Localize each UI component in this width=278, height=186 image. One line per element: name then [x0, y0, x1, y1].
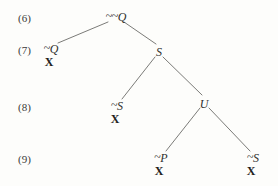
tableau-edges	[0, 0, 278, 186]
row-9-label: (9)	[18, 153, 31, 165]
edge-u-to-negp	[166, 108, 200, 151]
node-double-negation-q: ~~Q	[106, 11, 127, 23]
node-s: S	[156, 46, 162, 58]
node-negation-q-formula: ~Q	[44, 43, 59, 55]
node-s-formula: S	[156, 46, 162, 58]
edge-qq-to-s	[124, 22, 156, 44]
row-8-label: (8)	[18, 101, 31, 113]
edge-qq-to-negq	[58, 22, 108, 43]
node-negation-q-closure-marker: X	[40, 56, 59, 68]
node-negation-s-right: ~SX	[247, 152, 259, 177]
node-u-formula: U	[200, 98, 209, 110]
node-negation-s-left-closure-marker: X	[107, 113, 123, 125]
edge-s-to-negs	[122, 57, 155, 99]
node-negation-s-right-closure-marker: X	[243, 165, 259, 177]
node-double-negation-q-formula: ~~Q	[106, 11, 127, 23]
node-negation-s-left: ~SX	[111, 100, 123, 125]
row-6-label: (6)	[18, 12, 31, 24]
node-negation-p-letter: P	[160, 151, 167, 165]
node-u: U	[200, 98, 209, 110]
semantic-tableau-diagram: (6)(7)(8)(9) ~~Q~QXS~SXU~PX~SX	[0, 0, 278, 186]
row-7-label: (7)	[18, 44, 31, 56]
node-negation-p-formula: ~P	[154, 152, 167, 164]
node-negation-p: ~PX	[154, 152, 167, 177]
edge-u-to-negs	[209, 108, 250, 151]
node-negation-s-left-letter: S	[117, 99, 123, 113]
node-negation-s-left-formula: ~S	[111, 100, 123, 112]
node-negation-s-left-negation-symbol: ~	[111, 98, 117, 112]
node-double-negation-q-negation-symbol: ~~	[106, 9, 118, 23]
node-negation-p-closure-marker: X	[150, 165, 167, 177]
node-negation-s-right-letter: S	[253, 151, 259, 165]
node-negation-s-right-negation-symbol: ~	[247, 150, 253, 164]
node-negation-q: ~QX	[44, 43, 59, 68]
node-negation-q-negation-symbol: ~	[44, 41, 50, 55]
node-negation-q-letter: Q	[50, 42, 59, 56]
node-double-negation-q-letter: Q	[118, 10, 127, 24]
edge-s-to-u	[163, 57, 202, 95]
node-negation-p-negation-symbol: ~	[154, 150, 160, 164]
node-negation-s-right-formula: ~S	[247, 152, 259, 164]
